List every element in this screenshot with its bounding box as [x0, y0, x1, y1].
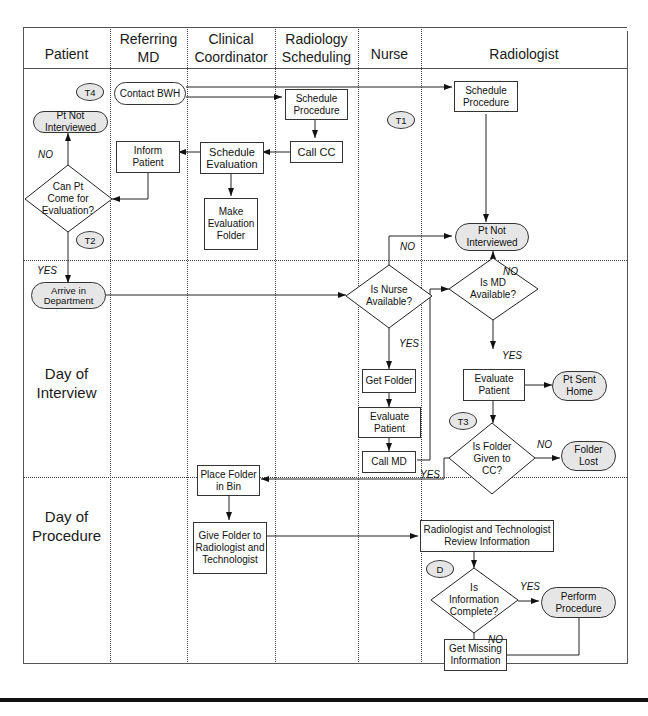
terminal-contact-bwh: Contact BWH [114, 82, 186, 105]
node-line: Pt Sent [563, 374, 596, 386]
node-line: Evaluation [208, 218, 255, 230]
node-line: Department [44, 296, 94, 306]
node-line: Folder [217, 230, 245, 242]
node-line: Available? [366, 296, 412, 308]
tag-d: D [426, 560, 454, 578]
node-line: Evaluate [370, 411, 409, 423]
edge-label-yes-can-pt: YES [37, 265, 57, 276]
node-line: CC? [482, 465, 502, 477]
edge-label-yes-md: YES [502, 350, 522, 361]
edge-label-no-folder: NO [537, 439, 552, 450]
node-line: Information [450, 655, 500, 667]
node-line: Home [566, 386, 593, 398]
terminal-folder-lost: Folder Lost [561, 441, 616, 471]
edge-label-yes-folder: YES [420, 469, 440, 480]
tag-t4: T4 [76, 83, 104, 101]
node-line: Call MD [371, 456, 407, 468]
terminal-perform-procedure: Perform Procedure [541, 587, 616, 618]
tag-t2: T2 [76, 231, 104, 249]
node-line: Schedule [296, 93, 338, 105]
node-line: Patient [478, 385, 509, 397]
node-line: Given to [473, 453, 510, 465]
node-line: Patient [132, 157, 163, 169]
tag-t3-label: T3 [457, 416, 468, 427]
terminal-arrive-in-department: Arrive in Department [31, 282, 106, 309]
edge-label-no-md: NO [503, 266, 518, 277]
page-bottom-rule [0, 698, 648, 702]
node-line: Arrive in [51, 286, 86, 296]
node-line: Pt Not [57, 110, 85, 122]
node-line: Interviewed [45, 122, 96, 134]
process-call-cc: Call CC [290, 141, 343, 163]
node-line: Is [470, 582, 478, 594]
node-line: Radiologist and [196, 542, 265, 554]
terminal-pt-not-interviewed-2: Pt Not Interviewed [455, 223, 529, 251]
node-line: Give Folder to [199, 530, 262, 542]
node-line: Evaluation [206, 158, 257, 170]
node-line: Technologist [202, 554, 258, 566]
process-give-folder: Give Folder to Radiologist and Technolog… [193, 522, 267, 574]
node-line: Interviewed [466, 237, 517, 249]
process-call-md: Call MD [362, 451, 416, 473]
node-line: Inform [134, 145, 162, 157]
node-line: Contact BWH [120, 88, 181, 100]
node-line: Procedure [555, 603, 601, 615]
node-line: Evaluation? [42, 205, 94, 217]
node-line: Schedule [209, 146, 255, 158]
node-line: Folder [574, 444, 602, 456]
process-schedule-evaluation: Schedule Evaluation [200, 142, 264, 174]
node-line: Information [449, 594, 499, 606]
node-line: Radiologist and Technologist [423, 524, 550, 536]
process-inform-patient: Inform Patient [116, 141, 180, 173]
terminal-pt-not-interviewed-1: Pt Not Interviewed [33, 111, 108, 133]
process-place-folder-in-bin: Place Folder in Bin [197, 465, 260, 496]
node-line: Review Information [444, 536, 530, 548]
node-line: Evaluate [475, 373, 514, 385]
tag-t1-label: T1 [395, 115, 406, 126]
tag-t1: T1 [387, 111, 415, 129]
tag-t4-label: T4 [84, 87, 95, 98]
node-line: Schedule [465, 85, 507, 97]
node-line: Available? [470, 289, 516, 301]
edge-label-yes-nurse: YES [399, 338, 419, 349]
process-schedule-procedure-radiologist: Schedule Procedure [454, 81, 518, 112]
node-line: Complete? [450, 606, 498, 618]
node-line: Procedure [463, 97, 509, 109]
edge-label-no-nurse: NO [400, 241, 415, 252]
process-evaluate-patient-nurse: Evaluate Patient [358, 407, 421, 438]
decision-is-information-complete: Is Information Complete? [440, 581, 508, 619]
process-evaluate-patient-radiologist: Evaluate Patient [463, 369, 525, 401]
tag-d-label: D [437, 564, 444, 575]
process-schedule-procedure-scheduling: Schedule Procedure [285, 89, 348, 120]
node-line: Get Folder [365, 375, 412, 387]
decision-is-nurse-available: Is Nurse Available? [355, 283, 423, 309]
process-get-folder: Get Folder [362, 369, 416, 393]
tag-t3: T3 [449, 412, 477, 430]
node-line: Is MD [480, 277, 506, 289]
edge-label-yes-info: YES [520, 581, 540, 592]
node-line: Patient [374, 423, 405, 435]
decision-can-pt-come: Can Pt Come for Evaluation? [30, 180, 106, 218]
node-line: Perform [561, 591, 597, 603]
edge-label-no-can-pt: NO [38, 149, 53, 160]
node-line: Is Folder [473, 441, 512, 453]
node-line: Call CC [298, 146, 336, 158]
decision-is-md-available: Is MD Available? [459, 276, 527, 302]
node-line: Come for [47, 193, 88, 205]
process-make-evaluation-folder: Make Evaluation Folder [204, 198, 258, 250]
node-line: Is Nurse [370, 284, 407, 296]
node-line: Place Folder [200, 469, 256, 481]
node-line: in Bin [216, 481, 241, 493]
node-line: Can Pt [53, 181, 84, 193]
swimlane-flowchart: Patient Referring MD Clinical Coordinato… [0, 0, 648, 716]
node-line: Make [219, 206, 243, 218]
node-line: Lost [579, 456, 598, 468]
terminal-pt-sent-home: Pt Sent Home [552, 371, 607, 401]
tag-t2-label: T2 [84, 235, 95, 246]
node-line: Pt Not [478, 225, 506, 237]
process-review-information: Radiologist and Technologist Review Info… [420, 520, 554, 552]
edge-label-no-info: NO [488, 634, 503, 645]
decision-is-folder-given: Is Folder Given to CC? [458, 440, 526, 478]
node-line: Procedure [293, 105, 339, 117]
